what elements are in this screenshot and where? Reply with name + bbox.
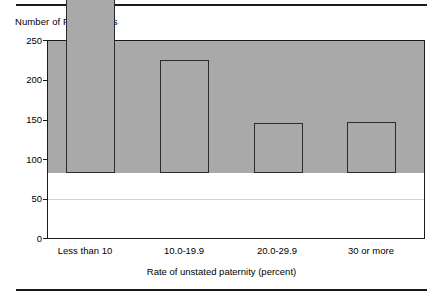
y-tick-label-0: 0: [12, 234, 42, 244]
plot-inner: [48, 41, 424, 238]
y-tick-label-200: 200: [12, 75, 42, 85]
bottom-divider: [16, 289, 427, 291]
bar-10-0-19-9[interactable]: [160, 60, 209, 173]
bar-less-than-10[interactable]: [66, 0, 115, 173]
bar-30-or-more[interactable]: [347, 122, 396, 172]
y-tick-label-50: 50: [12, 194, 42, 204]
bar-series: [48, 41, 424, 173]
y-tick-label-250: 250: [12, 36, 42, 46]
plot-area: [47, 40, 425, 239]
x-tick-label-30-or-more: 30 or more: [311, 245, 431, 256]
gridline-50: [48, 199, 424, 200]
bar-20-0-29-9[interactable]: [254, 123, 303, 172]
y-tick-label-150: 150: [12, 115, 42, 125]
y-tick-label-100: 100: [12, 155, 42, 165]
x-axis-title: Rate of unstated paternity (percent): [0, 266, 443, 277]
